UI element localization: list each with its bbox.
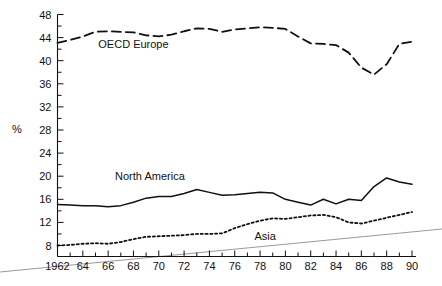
line-chart: 812162024283236404448 196264666870727476… (0, 0, 442, 286)
y-tick-label: 16 (39, 193, 51, 205)
x-tick-label: 1962 (45, 260, 69, 272)
y-tick-label: 36 (39, 78, 51, 90)
series-annotations: OECD EuropeNorth AmericaAsia (98, 38, 276, 242)
y-tick-label: 44 (39, 32, 51, 44)
x-axis-tick-labels: 19626466687072747678808284868890 (45, 260, 418, 272)
series-label-north-america: North America (115, 170, 186, 182)
series-label-oecd-europe: OECD Europe (98, 38, 168, 50)
y-tick-label: 20 (39, 170, 51, 182)
data-series-layer (58, 27, 413, 245)
y-tick-label: 40 (39, 55, 51, 67)
x-tick-label: 78 (254, 260, 266, 272)
y-axis-title: % (12, 123, 22, 135)
x-tick-label: 72 (178, 260, 190, 272)
chart-axes (58, 15, 417, 257)
series-line-asia (58, 212, 413, 245)
x-tick-label: 88 (381, 260, 393, 272)
y-tick-label: 28 (39, 124, 51, 136)
y-axis-tick-labels: 812162024283236404448 (39, 9, 51, 252)
x-tick-label: 68 (127, 260, 139, 272)
chart-container: 812162024283236404448 196264666870727476… (0, 0, 442, 286)
x-tick-label: 76 (229, 260, 241, 272)
y-tick-label: 48 (39, 9, 51, 21)
x-tick-label: 90 (406, 260, 418, 272)
y-tick-label: 24 (39, 147, 51, 159)
x-tick-label: 74 (203, 260, 215, 272)
y-tick-label: 32 (39, 101, 51, 113)
x-tick-label: 86 (355, 260, 367, 272)
x-tick-label: 64 (77, 260, 89, 272)
series-label-asia: Asia (254, 230, 276, 242)
x-tick-label: 80 (279, 260, 291, 272)
x-tick-label: 84 (330, 260, 342, 272)
y-tick-label: 8 (45, 240, 51, 252)
series-line-oecd-europe (58, 27, 413, 74)
y-tick-label: 12 (39, 216, 51, 228)
x-tick-label: 66 (102, 260, 114, 272)
x-tick-label: 70 (153, 260, 165, 272)
x-tick-label: 82 (305, 260, 317, 272)
series-line-north-america (58, 178, 413, 207)
